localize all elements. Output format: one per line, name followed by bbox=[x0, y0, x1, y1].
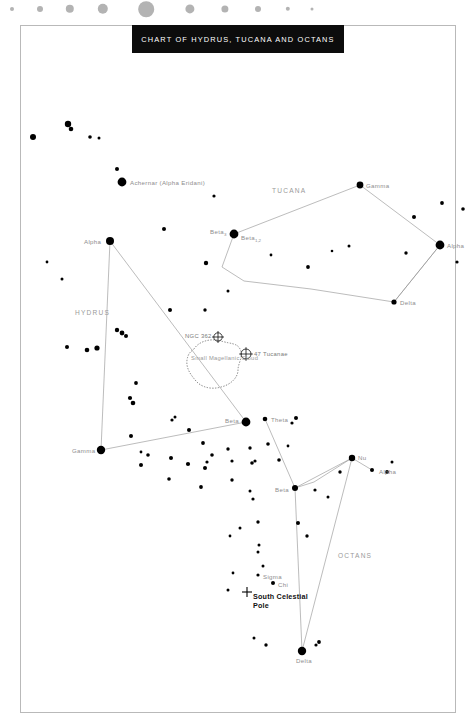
field-star bbox=[46, 261, 49, 264]
field-star bbox=[317, 640, 321, 644]
field-star bbox=[264, 643, 267, 646]
field-star bbox=[250, 461, 254, 465]
field-star bbox=[227, 589, 230, 592]
field-star bbox=[139, 463, 143, 467]
field-star bbox=[203, 308, 206, 311]
field-star bbox=[440, 201, 444, 205]
field-star bbox=[140, 451, 143, 454]
named-star-theta-octans bbox=[263, 417, 268, 422]
field-star bbox=[169, 456, 173, 460]
constellation-line-tucana-delta-alpha bbox=[394, 245, 440, 302]
field-star bbox=[229, 535, 232, 538]
star-label-nu-octans: Nu bbox=[358, 455, 367, 461]
field-star bbox=[296, 521, 300, 525]
field-star bbox=[65, 121, 71, 127]
named-star-gamma-hydrus bbox=[97, 446, 105, 454]
field-star bbox=[168, 308, 172, 312]
star-label-alpha-hydrus: Alpha bbox=[84, 239, 101, 245]
named-star-chi-octans bbox=[271, 581, 275, 585]
field-star bbox=[257, 551, 260, 554]
star-label-beta-octans: Beta bbox=[275, 487, 289, 493]
field-star bbox=[115, 328, 119, 332]
star-label-beta-hydrus: Beta bbox=[225, 418, 239, 424]
field-star bbox=[186, 462, 190, 466]
field-star bbox=[230, 478, 233, 481]
star-label-alpha-tucana: Alpha bbox=[447, 243, 464, 249]
field-star bbox=[412, 215, 416, 219]
star-label-beta-tucana: Beta1,2 bbox=[241, 235, 261, 244]
field-star bbox=[203, 466, 207, 470]
field-star bbox=[124, 334, 128, 338]
south-celestial-pole-marker bbox=[242, 587, 252, 597]
star-label-beta-tucana: Beta3 bbox=[210, 229, 226, 238]
named-star-alpha-tucana bbox=[436, 241, 445, 250]
constellation-name-tucana: TUCANA bbox=[272, 188, 306, 195]
field-star bbox=[98, 137, 101, 140]
constellation-name-octans: OCTANS bbox=[338, 553, 372, 560]
field-star bbox=[251, 497, 254, 500]
field-star bbox=[174, 416, 177, 419]
field-star bbox=[94, 345, 99, 350]
field-star bbox=[69, 127, 74, 132]
field-star bbox=[167, 477, 171, 481]
field-star bbox=[187, 428, 191, 432]
field-star bbox=[331, 250, 334, 253]
field-star bbox=[253, 459, 256, 462]
field-star bbox=[262, 565, 265, 568]
field-star bbox=[210, 453, 214, 457]
field-star bbox=[313, 488, 316, 491]
field-star bbox=[199, 485, 203, 489]
south-celestial-pole-label: South Celestial Pole bbox=[253, 592, 313, 611]
field-star bbox=[305, 534, 308, 537]
field-star bbox=[391, 461, 394, 464]
named-star-beta-tucana bbox=[230, 230, 239, 239]
field-star bbox=[287, 445, 290, 448]
field-star bbox=[338, 470, 341, 473]
field-star bbox=[204, 261, 208, 265]
field-star bbox=[239, 527, 242, 530]
star-map-canvas bbox=[0, 0, 473, 728]
named-star-alpha-hydrus bbox=[106, 237, 114, 245]
field-star bbox=[327, 496, 330, 499]
field-star bbox=[404, 251, 407, 254]
small-magellanic-cloud-outline bbox=[187, 340, 242, 388]
field-star bbox=[61, 278, 64, 281]
field-star bbox=[162, 227, 166, 231]
field-star bbox=[131, 401, 136, 406]
field-star bbox=[294, 416, 298, 420]
named-star-gamma-tucana bbox=[357, 182, 364, 189]
field-star bbox=[248, 446, 251, 449]
field-star bbox=[348, 245, 351, 248]
field-star bbox=[290, 421, 293, 424]
field-star bbox=[277, 458, 281, 462]
field-star bbox=[256, 520, 259, 523]
star-label-sigma-octans: Sigma bbox=[263, 574, 282, 580]
field-star bbox=[455, 260, 458, 263]
named-star-beta-hydrus bbox=[242, 418, 251, 427]
field-star bbox=[88, 135, 92, 139]
star-label-delta-tucana: Delta bbox=[400, 300, 416, 306]
star-label-achernar-alpha-eridani--eridanus: Achernar (Alpha Eridani) bbox=[130, 180, 205, 186]
field-star bbox=[306, 265, 310, 269]
constellation-line-octans bbox=[265, 419, 352, 651]
field-star bbox=[170, 418, 173, 421]
star-label-alpha-octans: Alpha bbox=[379, 469, 396, 475]
field-star bbox=[134, 381, 138, 385]
field-star bbox=[201, 441, 205, 445]
field-star bbox=[461, 207, 465, 211]
star-label-delta-octans: Delta bbox=[296, 658, 312, 664]
field-star bbox=[115, 167, 119, 171]
field-star bbox=[253, 637, 256, 640]
field-star bbox=[205, 460, 208, 463]
named-star-delta-tucana bbox=[391, 299, 396, 304]
field-star bbox=[258, 544, 261, 547]
field-star bbox=[232, 572, 235, 575]
named-star-nu-octans bbox=[349, 455, 355, 461]
field-star bbox=[266, 442, 270, 446]
field-star bbox=[212, 194, 215, 197]
field-star bbox=[65, 345, 69, 349]
star-chart-page: CHART OF HYDRUS, TUCANA AND OCTANS NGC 3… bbox=[0, 0, 473, 728]
field-star bbox=[30, 134, 36, 140]
named-star-beta-octans bbox=[292, 485, 298, 491]
field-star bbox=[128, 396, 132, 400]
